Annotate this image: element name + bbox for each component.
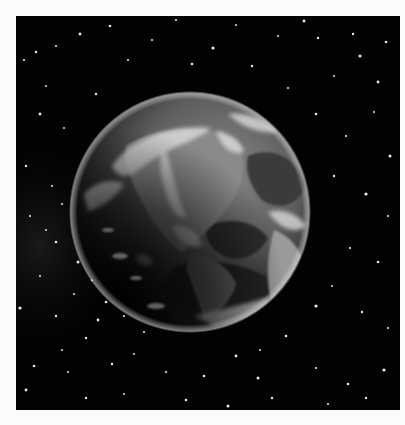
earth-scene bbox=[16, 16, 400, 410]
earth-photo bbox=[16, 16, 400, 410]
earth-globe bbox=[69, 91, 311, 333]
